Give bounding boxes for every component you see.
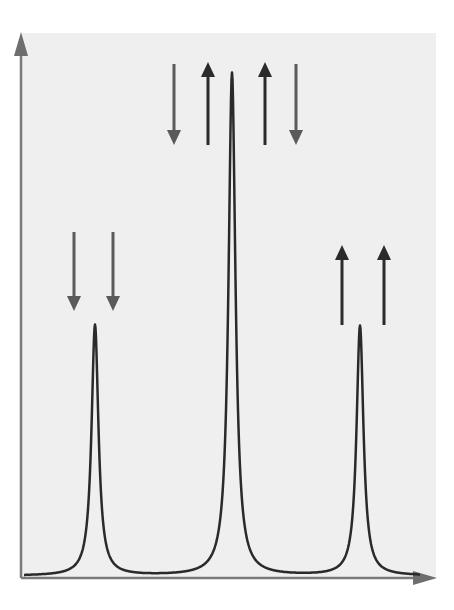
arrow-down-icon [167,130,181,145]
spectrum-figure [0,0,454,610]
arrow-up-icon [377,245,391,260]
arrow-up-icon [335,245,349,260]
spectrum-curve [24,73,420,575]
arrow-up-icon [201,62,215,77]
arrow-down-icon [289,130,303,145]
arrow-down-icon [67,296,81,311]
axes [14,32,437,585]
arrow-up-icon [258,62,272,77]
arrow-down-icon [106,296,120,311]
y-axis-arrowhead-icon [14,32,28,56]
